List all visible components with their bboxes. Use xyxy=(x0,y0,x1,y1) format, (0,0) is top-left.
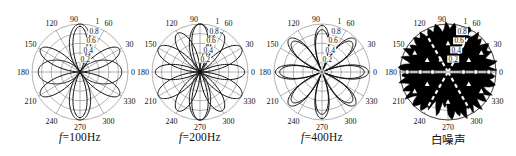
radial-tick-label: 0.6 xyxy=(206,36,216,45)
radial-tick-label: 0.4 xyxy=(204,46,214,55)
angle-tick-label: 30 xyxy=(493,40,501,49)
angle-tick-label: 240 xyxy=(414,117,426,126)
angle-tick-label: 60 xyxy=(347,19,355,28)
radial-tick-label: 1 xyxy=(338,17,342,26)
radial-tick-label: 0.4 xyxy=(326,46,336,55)
radial-tick-label: 0.8 xyxy=(209,27,219,36)
radial-tick-label: 0.6 xyxy=(328,36,338,45)
angle-tick-label: 300 xyxy=(103,117,115,126)
ring-marker xyxy=(405,70,409,74)
polar-chart-400hz: 03060901201501802102402703003300.20.40.6… xyxy=(259,15,377,132)
angle-tick-label: 180 xyxy=(17,68,29,77)
angle-tick-label: 330 xyxy=(243,97,255,106)
radial-tick-label: 0.4 xyxy=(84,46,94,55)
angle-tick-label: 120 xyxy=(46,19,58,28)
radial-tick-label: 1 xyxy=(216,17,220,26)
angle-tick-label: 90 xyxy=(438,15,446,24)
caption-200hz: f=200Hz xyxy=(150,131,250,143)
angle-tick-label: 60 xyxy=(225,19,233,28)
radial-tick-label: 0.6 xyxy=(86,36,96,45)
radial-tick-label: 0.2 xyxy=(323,55,333,64)
angle-tick-label: 150 xyxy=(25,40,37,49)
angle-tick-label: 210 xyxy=(25,97,37,106)
angle-tick-label: 330 xyxy=(123,97,135,106)
radial-tick-label: 0.2 xyxy=(81,55,91,64)
caption-text: =400Hz xyxy=(305,131,343,143)
ring-marker xyxy=(487,70,491,74)
radial-tick-label: 0.8 xyxy=(89,27,99,36)
radial-tick-label: 1 xyxy=(464,17,468,26)
angle-tick-label: 30 xyxy=(125,40,133,49)
ring-marker xyxy=(418,70,422,74)
ring-marker xyxy=(430,70,434,74)
radial-tick-label: 0.8 xyxy=(457,27,467,36)
angle-tick-label: 120 xyxy=(414,19,426,28)
polar-chart-200hz: 03060901201501802102402703003300.20.40.6… xyxy=(137,15,255,132)
directivity-polar-figure: 03060901201501802102402703003300.20.40.6… xyxy=(0,0,516,156)
angle-tick-label: 120 xyxy=(166,19,178,28)
caption-400hz: f=400Hz xyxy=(272,131,372,143)
radial-tick-label: 1 xyxy=(96,17,100,26)
angle-tick-label: 330 xyxy=(365,97,377,106)
angle-tick-label: 150 xyxy=(145,40,157,49)
angle-tick-label: 180 xyxy=(259,68,271,77)
caption-text: 白噪声 xyxy=(431,134,465,146)
caption-white-noise: 白噪声 xyxy=(398,131,498,147)
polar-chart-white-noise: 03060901201501802102402703003300.20.40.6… xyxy=(385,15,503,132)
radial-tick-label: 0.8 xyxy=(331,27,341,36)
angle-tick-label: 210 xyxy=(393,97,405,106)
radial-tick-label: 0.2 xyxy=(201,55,211,64)
angle-tick-label: 30 xyxy=(367,40,375,49)
radial-tick-label: 0.6 xyxy=(454,36,464,45)
angle-tick-label: 300 xyxy=(471,117,483,126)
polar-chart-100hz: 03060901201501802102402703003300.20.40.6… xyxy=(17,15,135,132)
angle-tick-label: 150 xyxy=(393,40,405,49)
angle-tick-label: 90 xyxy=(70,15,78,24)
angle-tick-label: 60 xyxy=(105,19,113,28)
angle-tick-label: 120 xyxy=(288,19,300,28)
radial-tick-label: 0.4 xyxy=(452,46,462,55)
angle-tick-label: 0 xyxy=(373,68,377,77)
angle-tick-label: 0 xyxy=(499,68,503,77)
angle-tick-label: 300 xyxy=(223,117,235,126)
caption-text: =200Hz xyxy=(183,131,221,143)
angle-tick-label: 240 xyxy=(166,117,178,126)
angle-tick-label: 330 xyxy=(491,97,503,106)
angle-tick-label: 300 xyxy=(345,117,357,126)
ring-marker xyxy=(474,70,478,74)
angle-tick-label: 30 xyxy=(245,40,253,49)
angle-tick-label: 60 xyxy=(473,19,481,28)
ring-marker xyxy=(461,70,465,74)
angle-tick-label: 210 xyxy=(267,97,279,106)
angle-tick-label: 90 xyxy=(190,15,198,24)
angle-tick-label: 240 xyxy=(288,117,300,126)
angle-tick-label: 150 xyxy=(267,40,279,49)
angle-tick-label: 180 xyxy=(137,68,149,77)
caption-text: =100Hz xyxy=(63,131,101,143)
angle-tick-label: 240 xyxy=(46,117,58,126)
angle-tick-label: 90 xyxy=(312,15,320,24)
angle-tick-label: 180 xyxy=(385,68,397,77)
radial-tick-label: 0.2 xyxy=(449,55,459,64)
angle-tick-label: 0 xyxy=(251,68,255,77)
angle-tick-label: 210 xyxy=(145,97,157,106)
angle-tick-label: 0 xyxy=(131,68,135,77)
caption-100hz: f=100Hz xyxy=(30,131,130,143)
